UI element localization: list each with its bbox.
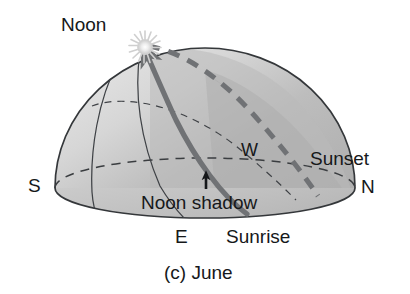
dome-illustration — [0, 0, 410, 294]
label-sunset: Sunset — [310, 149, 369, 168]
label-east: E — [175, 227, 188, 246]
label-noon-shadow: Noon shadow — [141, 193, 257, 212]
figure-caption: (c) June — [164, 263, 233, 282]
label-south: S — [28, 176, 41, 195]
label-sunrise: Sunrise — [226, 227, 290, 246]
label-noon: Noon — [61, 15, 106, 34]
label-north: N — [361, 177, 375, 196]
celestial-dome-figure: Noon W Sunset S N Noon shadow E Sunrise … — [0, 0, 410, 294]
label-west: W — [241, 141, 258, 159]
